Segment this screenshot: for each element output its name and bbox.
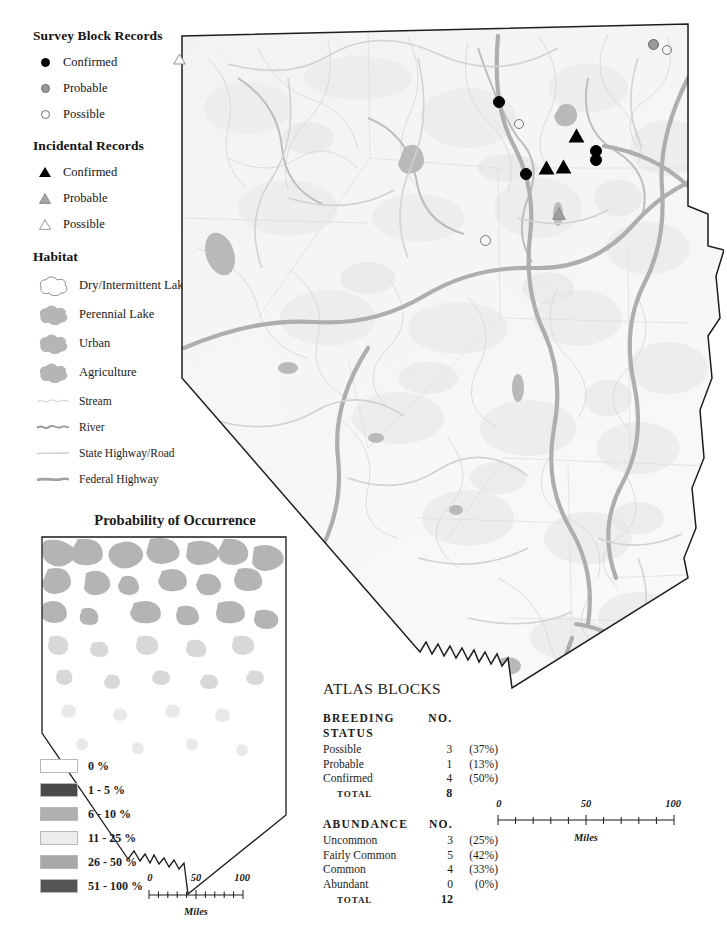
prob-swatch-row-3: 11 - 25 % <box>40 826 143 850</box>
map-marker-filled-triangle[interactable] <box>555 159 572 178</box>
map-terrain-layer <box>168 18 724 818</box>
habitat-label: Perennial Lake <box>73 307 154 322</box>
inset-scale-ticks <box>148 889 244 899</box>
prob-swatch-row-1: 1 - 5 % <box>40 778 143 802</box>
prob-swatch-color <box>40 879 78 893</box>
map-marker-filled-triangle[interactable] <box>538 160 555 179</box>
scale-tick-label: 100 <box>234 872 250 883</box>
filled-circle-icon <box>33 58 57 67</box>
map-marker-filled-circle[interactable] <box>590 154 602 166</box>
table-row: Abundant 0 (0%) <box>323 877 498 892</box>
prob-swatch-label: 1 - 5 % <box>78 783 125 798</box>
prob-swatch-row-4: 26 - 50 % <box>40 850 143 874</box>
row-count: 5 <box>427 848 453 863</box>
row-label: Fairly Common <box>323 848 427 863</box>
row-count: 4 <box>427 862 453 877</box>
legend-label: Possible <box>57 107 105 122</box>
map-marker-open-triangle[interactable] <box>173 51 186 69</box>
map-marker-open-circle[interactable] <box>514 119 524 129</box>
total-count: 12 <box>427 892 453 908</box>
state-highway-line-icon <box>33 447 73 459</box>
stream-line-icon <box>33 395 73 407</box>
total-label: TOTAL <box>323 892 427 908</box>
row-label: Common <box>323 862 427 877</box>
row-percent: (25%) <box>453 833 498 848</box>
inset-scale-bar: 0 50 100 Miles <box>148 872 244 917</box>
table-row: Fairly Common 5 (42%) <box>323 848 498 863</box>
habitat-label: Federal Highway <box>73 473 159 485</box>
river-line-icon <box>33 421 73 433</box>
gray-circle-icon <box>33 84 57 93</box>
legend-label: Confirmed <box>57 165 117 180</box>
row-count: 0 <box>427 877 453 892</box>
map-marker-filled-circle[interactable] <box>520 168 532 180</box>
row-label: Abundant <box>323 877 427 892</box>
table-row: Common 4 (33%) <box>323 862 498 877</box>
prob-swatch-color <box>40 855 78 869</box>
prob-swatch-label: 6 - 10 % <box>78 807 131 822</box>
habitat-label: Stream <box>73 395 112 407</box>
prob-swatch-label: 0 % <box>78 759 109 774</box>
perennial-lake-blob-icon <box>33 304 73 326</box>
dry-lake-blob-icon <box>33 275 73 297</box>
prob-swatch-row-5: 51 - 100 % <box>40 874 143 898</box>
agriculture-blob-icon <box>33 362 73 384</box>
map-marker-filled-circle[interactable] <box>493 96 505 108</box>
row-percent: (0%) <box>453 877 498 892</box>
prob-swatch-label: 51 - 100 % <box>78 879 143 894</box>
legend-label: Probable <box>57 191 107 206</box>
habitat-label: Urban <box>73 336 110 351</box>
open-triangle-icon <box>33 219 57 230</box>
urban-blob-icon <box>33 333 73 355</box>
map-marker-gray-circle[interactable] <box>648 39 659 50</box>
legend-label: Possible <box>57 217 105 232</box>
abundance-table: ABUNDANCE NO. Uncommon 3 (25%) Fairly Co… <box>323 811 498 908</box>
prob-swatch-row-0: 0 % <box>40 754 143 778</box>
filled-triangle-icon <box>33 167 57 177</box>
legend-label: Probable <box>57 81 107 96</box>
habitat-label: State Highway/Road <box>73 447 175 459</box>
scale-units-label: Miles <box>148 906 244 917</box>
map-marker-open-circle[interactable] <box>480 235 491 246</box>
habitat-label: River <box>73 421 105 433</box>
nevada-map-svg <box>168 18 724 818</box>
scale-tick-label: 50 <box>191 872 202 883</box>
table-row: Uncommon 3 (25%) <box>323 833 498 848</box>
open-circle-icon <box>33 110 57 119</box>
map-marker-open-circle[interactable] <box>662 45 672 55</box>
prob-swatch-label: 26 - 50 % <box>78 855 137 870</box>
row-label: Uncommon <box>323 833 427 848</box>
map-marker-gray-triangle[interactable] <box>552 206 566 224</box>
prob-swatch-label: 11 - 25 % <box>78 831 136 846</box>
total-percent <box>453 892 498 908</box>
scale-units-label: Miles <box>497 832 675 843</box>
nevada-distribution-map <box>168 18 724 818</box>
prob-swatch-color <box>40 807 78 821</box>
inset-scale-numbers: 0 50 100 <box>148 872 244 885</box>
row-count: 3 <box>427 833 453 848</box>
table-total-row: TOTAL 12 <box>323 892 498 908</box>
row-percent: (42%) <box>453 848 498 863</box>
prob-swatch-color <box>40 831 78 845</box>
federal-highway-line-icon <box>33 473 73 485</box>
row-percent: (33%) <box>453 862 498 877</box>
habitat-label: Agriculture <box>73 365 137 380</box>
prob-swatch-row-2: 6 - 10 % <box>40 802 143 826</box>
prob-swatch-color <box>40 759 78 773</box>
prob-swatch-color <box>40 783 78 797</box>
gray-triangle-icon <box>33 193 57 204</box>
scale-tick-label: 0 <box>147 872 152 883</box>
legend-label: Confirmed <box>57 55 117 70</box>
map-marker-filled-triangle[interactable] <box>568 128 585 147</box>
probability-swatch-legend: 0 % 1 - 5 % 6 - 10 % 11 - 25 % 26 - 50 %… <box>40 754 143 898</box>
